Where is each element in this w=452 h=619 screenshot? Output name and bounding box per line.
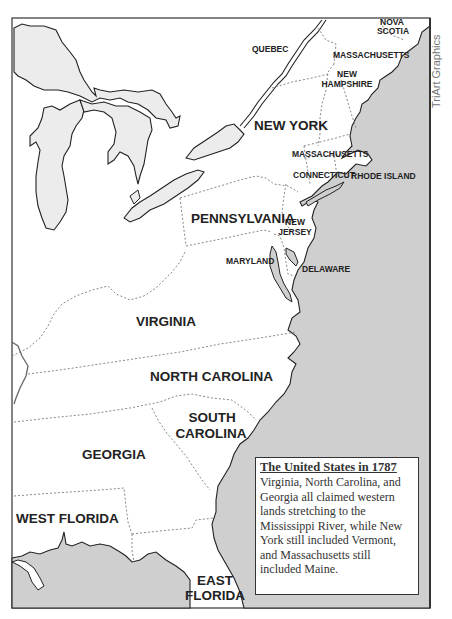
caption-body: Virginia, North Carolina, and Georgia al…: [260, 475, 414, 577]
label-pennsylvania: PENNSYLVANIA: [191, 211, 295, 226]
label-new-york: NEW YORK: [254, 118, 328, 133]
label-virginia: VIRGINIA: [136, 314, 196, 329]
label-west-florida: WEST FLORIDA: [16, 511, 119, 526]
label-new-hampshire: HAMPSHIRE: [321, 79, 372, 89]
label-massachusetts: MASSACHUSETTS: [292, 149, 369, 159]
label-massachusetts-maine: MASSACHUSETTS: [333, 50, 410, 60]
credit-text: TriArt Graphics: [430, 34, 442, 108]
caption-title: The United States in 1787: [260, 460, 414, 475]
image-credit: TriArt Graphics: [428, 20, 452, 110]
label-delaware: DELAWARE: [302, 264, 351, 274]
label-new-hampshire: NEW: [337, 69, 358, 79]
label-east-florida: FLORIDA: [185, 588, 245, 603]
label-maryland: MARYLAND: [226, 256, 274, 266]
label-new-jersey: NEW: [285, 217, 306, 227]
map-caption-box: The United States in 1787 Virginia, Nort…: [255, 457, 419, 595]
label-south-carolina: CAROLINA: [175, 426, 246, 441]
label-georgia: GEORGIA: [82, 447, 146, 462]
label-south-carolina: SOUTH: [188, 410, 235, 425]
label-connecticut: CONNECTICUT: [293, 170, 356, 180]
label-north-carolina: NORTH CAROLINA: [150, 369, 273, 384]
label-quebec: QUEBEC: [252, 44, 288, 54]
label-new-jersey: JERSEY: [278, 227, 312, 237]
label-east-florida: EAST: [197, 573, 234, 588]
label-nova-scotia: SCOTIA: [377, 26, 409, 36]
label-rhode-island: RHODE ISLAND: [351, 171, 416, 181]
